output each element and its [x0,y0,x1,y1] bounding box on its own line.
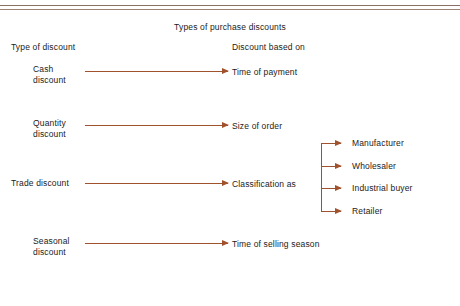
branch-label-wholesaler: Wholesaler [352,161,396,171]
branch-label-retailer: Retailer [352,206,383,216]
row-label-quantity-discount-line1: Quantity [33,118,66,129]
branch-label-manufacturer: Manufacturer [352,138,404,148]
row-label-seasonal-discount-line2: discount [33,247,66,258]
top-rule-lower [0,9,460,10]
arrow-trade-discount [85,183,228,184]
row-result-time-of-selling-season: Time of selling season [232,239,320,249]
branch-bracket-spine [321,143,322,212]
column-header-discount-based-on: Discount based on [232,42,305,52]
column-header-type-of-discount: Type of discount [11,42,75,52]
row-label-cash-discount-line1: Cash [33,64,53,75]
branch-arrow-retailer [321,211,341,212]
arrow-cash-discount [85,71,228,72]
row-result-classification-as: Classification as [232,179,296,189]
arrow-seasonal-discount [85,243,228,244]
branch-label-industrial-buyer: Industrial buyer [352,183,413,193]
branch-arrow-industrial-buyer [321,188,341,189]
row-label-trade-discount-line1: Trade discount [11,178,69,189]
diagram-title: Types of purchase discounts [0,22,460,32]
row-label-quantity-discount-line2: discount [33,129,66,140]
branch-arrow-wholesaler [321,166,341,167]
branch-arrow-manufacturer [321,143,341,144]
row-label-cash-discount-line2: discount [33,75,66,86]
arrow-quantity-discount [85,125,228,126]
row-label-seasonal-discount-line1: Seasonal [33,236,70,247]
row-result-size-of-order: Size of order [232,121,282,131]
top-rule-upper [0,5,460,6]
row-result-time-of-payment: Time of payment [232,67,297,77]
diagram-canvas: Types of purchase discounts Type of disc… [0,0,460,306]
